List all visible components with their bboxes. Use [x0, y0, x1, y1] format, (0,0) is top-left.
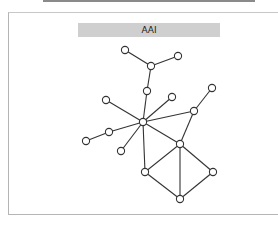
graph-node	[147, 62, 154, 69]
graph-node	[208, 84, 215, 91]
graph-edge	[143, 97, 172, 122]
graph-node	[105, 128, 112, 135]
graph-edge	[194, 88, 212, 111]
graph-node	[190, 107, 197, 114]
graph-edge	[143, 122, 145, 172]
graph-node	[117, 147, 124, 154]
graph-node	[139, 118, 146, 125]
graph-node	[176, 195, 183, 202]
graph-edge	[145, 172, 180, 199]
graph-node	[82, 137, 89, 144]
graph-edge	[180, 111, 194, 144]
graph-edge	[151, 56, 178, 66]
graph-node	[102, 96, 109, 103]
graph-node	[209, 168, 216, 175]
graph-edge	[180, 172, 213, 199]
graph-edge	[109, 122, 143, 132]
graph-edge	[180, 144, 213, 172]
graph-node	[121, 46, 128, 53]
graph-node	[141, 168, 148, 175]
graph-edge	[106, 100, 143, 122]
network-graph	[0, 0, 278, 227]
graph-node	[174, 52, 181, 59]
graph-node	[168, 93, 175, 100]
graph-edge	[121, 122, 143, 151]
graph-edge	[143, 91, 147, 122]
graph-node	[143, 87, 150, 94]
graph-node	[176, 140, 183, 147]
graph-edge	[145, 144, 180, 172]
graph-edge	[125, 50, 151, 66]
graph-edge	[143, 122, 180, 144]
graph-edge	[143, 111, 194, 122]
